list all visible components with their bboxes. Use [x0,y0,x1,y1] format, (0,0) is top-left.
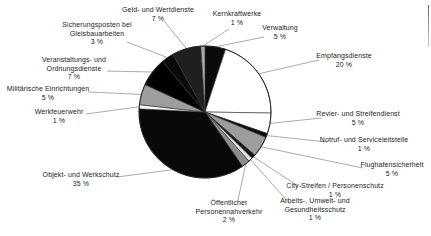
slice-percent: 1 % [35,117,84,126]
slice-label-geld-und-wertdienste: Geld- und Wertdienste7 % [122,6,194,23]
slice-name-line: Kernkraftwerke [213,10,261,19]
slice-name-line: Werkfeuerwehr [35,108,84,117]
slice-name-line: Militärische Einrichtungen [7,85,89,94]
slice-name-line: Personennahverkehr [196,208,263,217]
slice-name-line: Gleisbauarbeiten [62,30,131,39]
slice-percent: 20 % [316,61,372,70]
slice-label-arbeits-umwelt-gesundheitsschutz: Arbeits-, Umwelt- undGesundheitsschutz1 … [280,197,349,223]
scan-artifact-line [428,5,429,47]
slice-percent: 5 % [262,33,298,42]
slice-name-line: Notruf- und Serviceleitstelle [320,136,409,145]
slice-label-kernkraftwerke: Kernkraftwerke1 % [213,10,261,27]
slice-percent: 7 % [42,73,106,82]
slice-label-oeffentlicher-personennahverkehr: ÖffentlicherPersonennahverkehr2 % [196,199,263,225]
slice-label-verwaltung: Verwaltung5 % [262,24,298,41]
slice-name-line: Empfangsdienste [316,52,372,61]
slice-percent: 5 % [7,94,89,103]
slice-name-line: Öffentlicher [196,199,263,208]
slice-percent: 7 % [122,15,194,24]
slice-label-revier-und-streifendienst: Revier- und Streifendienst5 % [316,110,400,127]
slice-label-objekt-und-werkschutz: Objekt- und Werkschutz35 % [43,171,120,188]
slice-name-line: Objekt- und Werkschutz [43,171,120,180]
slice-name-line: City-Streifen / Personenschutz [286,182,384,191]
slice-name-line: Arbeits-, Umwelt- und [280,197,349,206]
slice-label-empfangsdienste: Empfangsdienste20 % [316,52,372,69]
slice-name-line: Revier- und Streifendienst [316,110,400,119]
chart-container: Verwaltung5 %Empfangsdienste20 %Revier- … [0,0,431,236]
slice-name-line: Veranstaltungs- und [42,56,106,65]
slice-percent: 5 % [361,170,424,179]
slice-percent: 2 % [196,216,263,225]
slice-percent: 1 % [213,19,261,28]
slice-percent: 35 % [43,180,120,189]
slice-percent: 1 % [320,145,409,154]
slice-name-line: Gesundheitsschutz [280,206,349,215]
slice-name-line: Flughafensicherheit [361,161,424,170]
slice-label-flughafensicherheit: Flughafensicherheit5 % [361,161,424,178]
slice-name-line: Ordnungsdienste [42,65,106,74]
slice-label-sicherungsposten-bei-gleisbauarbeiten: Sicherungsposten beiGleisbauarbeiten3 % [62,21,131,47]
slice-percent: 3 % [62,38,131,47]
slice-label-militaerische-einrichtungen: Militärische Einrichtungen5 % [7,85,89,102]
slice-label-werkfeuerwehr: Werkfeuerwehr1 % [35,108,84,125]
slice-percent: 1 % [280,214,349,223]
slice-label-notruf-und-serviceleitstelle: Notruf- und Serviceleitstelle1 % [320,136,409,153]
slice-percent: 5 % [316,119,400,128]
slice-name-line: Verwaltung [262,24,298,33]
labels-layer: Verwaltung5 %Empfangsdienste20 %Revier- … [0,0,431,236]
slice-label-veranstaltungs-und-ordnungsdienste: Veranstaltungs- undOrdnungsdienste7 % [42,56,106,82]
slice-name-line: Geld- und Wertdienste [122,6,194,15]
